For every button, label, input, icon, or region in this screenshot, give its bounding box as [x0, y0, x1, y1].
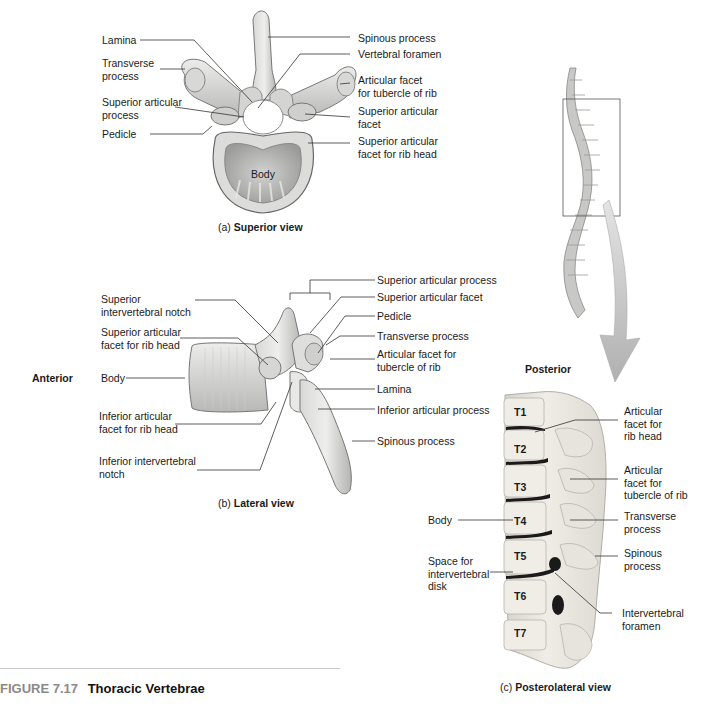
label-inferior-articular-facet-rib-head: Inferior articular facet for rib head: [99, 410, 178, 435]
label-body-a: Body: [251, 168, 275, 181]
label-superior-intervertebral-notch: Superior intervertebral notch: [101, 293, 191, 318]
label-transverse-process-c: Transverse process: [624, 510, 676, 535]
vertebra-label-t7: T7: [514, 627, 526, 640]
figure-caption: FIGURE 7.17 Thoracic Vertebrae: [0, 681, 205, 696]
label-superior-articular-facet-rib-head-b: Superior articular facet for rib head: [101, 326, 181, 351]
label-transverse-process-a: Transverse process: [102, 57, 154, 82]
label-superior-articular-facet-a: Superior articular facet: [358, 105, 438, 130]
label-space-intervertebral-disk: Space for intervertebral disk: [428, 555, 489, 593]
label-articular-facet-rib-head-c: Articular facet for rib head: [624, 405, 663, 443]
vertebra-label-t2: T2: [514, 443, 526, 456]
label-lamina-b: Lamina: [377, 383, 411, 396]
label-lamina-a: Lamina: [102, 34, 136, 47]
label-articular-facet-tubercle-c: Articular facet for tubercle of rib: [624, 464, 688, 502]
label-spinous-process-c: Spinous process: [624, 547, 662, 572]
label-superior-articular-process-b: Superior articular process: [377, 274, 497, 287]
caption-posterolateral-view: (c) Posterolateral view: [500, 681, 611, 693]
label-vertebral-foramen-a: Vertebral foramen: [358, 48, 441, 61]
label-articular-facet-tubercle-a: Articular facet for tubercle of rib: [358, 74, 437, 99]
figure-title: Thoracic Vertebrae: [88, 681, 205, 696]
vertebra-label-t6: T6: [514, 590, 526, 603]
label-transverse-process-b: Transverse process: [377, 330, 469, 343]
orientation-anterior: Anterior: [32, 372, 73, 385]
label-pedicle-b: Pedicle: [377, 310, 411, 323]
label-body-b: Body: [101, 372, 125, 385]
label-body-c: Body: [428, 514, 452, 527]
label-spinous-process-a: Spinous process: [358, 32, 436, 45]
caption-lateral-view: (b) Lateral view: [218, 497, 294, 509]
label-superior-articular-facet-b: Superior articular facet: [377, 291, 483, 304]
vertebra-label-t1: T1: [514, 406, 526, 419]
label-inferior-intervertebral-notch: Inferior intervertebral notch: [99, 455, 196, 480]
caption-divider: [0, 668, 340, 669]
label-pedicle-a: Pedicle: [102, 128, 136, 141]
orientation-posterior: Posterior: [525, 363, 571, 376]
caption-title: Posterolateral view: [515, 681, 611, 693]
spine-overview: [563, 68, 640, 382]
label-articular-facet-tubercle-b: Articular facet for tubercle of rib: [377, 348, 456, 373]
vertebra-label-t5: T5: [514, 550, 526, 563]
caption-title: Superior view: [234, 221, 303, 233]
caption-prefix: (b): [218, 497, 231, 509]
label-inferior-articular-process-b: Inferior articular process: [377, 404, 490, 417]
curved-arrow-icon: [600, 200, 640, 382]
figure-number: FIGURE 7.17: [0, 681, 78, 696]
caption-superior-view: (a) Superior view: [218, 221, 303, 233]
caption-prefix: (a): [218, 221, 231, 233]
label-superior-articular-facet-rib-head-a: Superior articular facet for rib head: [358, 135, 438, 160]
label-intervertebral-foramen: Intervertebral foramen: [622, 607, 684, 632]
lateral-view-vertebra: [189, 308, 351, 494]
vertebra-label-t4: T4: [514, 515, 526, 528]
caption-prefix: (c): [500, 681, 512, 693]
label-superior-articular-process-a: Superior articular process: [102, 96, 182, 121]
label-spinous-process-b: Spinous process: [377, 435, 455, 448]
vertebra-label-t3: T3: [514, 481, 526, 494]
caption-title: Lateral view: [234, 497, 294, 509]
